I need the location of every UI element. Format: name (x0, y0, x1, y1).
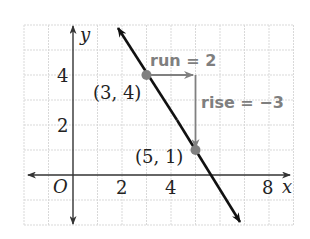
rise-label: rise = −3 (201, 93, 284, 112)
point-5-1-label: (5, 1) (135, 146, 183, 167)
graph-line-lower (177, 120, 240, 222)
run-label: run = 2 (150, 51, 216, 70)
origin-label: O (53, 176, 68, 197)
point-3-4 (142, 70, 152, 80)
x-tick-4: 4 (165, 177, 176, 198)
slope-diagram: y x O 2 4 8 4 2 run = 2 rise = −3 (3, 4)… (0, 0, 310, 239)
x-tick-8: 8 (262, 177, 273, 198)
point-5-1 (191, 145, 201, 155)
y-tick-2: 2 (57, 115, 68, 136)
x-axis-label: x (282, 176, 292, 197)
x-tick-2: 2 (116, 177, 127, 198)
y-axis-label: y (79, 24, 91, 45)
point-3-4-label: (3, 4) (93, 82, 141, 103)
y-tick-4: 4 (57, 65, 68, 86)
